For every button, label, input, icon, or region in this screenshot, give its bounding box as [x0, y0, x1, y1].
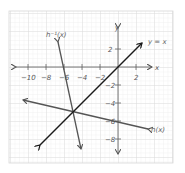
y-axis-label: y	[114, 24, 120, 32]
y-tick-label: 2	[108, 46, 113, 54]
label-h: h(x)	[151, 126, 165, 134]
label-identity: y = x	[147, 38, 167, 46]
y-tick-label: −4	[105, 100, 115, 108]
x-tick-label: −4	[77, 74, 87, 82]
y-tick-label: −2	[105, 82, 116, 90]
x-tick-label: −10	[21, 74, 36, 82]
x-tick-label: −6	[59, 74, 70, 82]
x-tick-label: 2	[134, 74, 139, 82]
y-tick-label: −8	[105, 136, 116, 144]
x-axis-label: x	[154, 64, 160, 72]
grid-major	[9, 11, 173, 163]
function-graph: −10 −8 −6 −4 −2 2 2 −2 −4 −6 −8 x y h⁻¹(…	[0, 0, 185, 173]
x-tick-label: −8	[41, 74, 52, 82]
label-h-inverse: h⁻¹(x)	[46, 31, 67, 39]
